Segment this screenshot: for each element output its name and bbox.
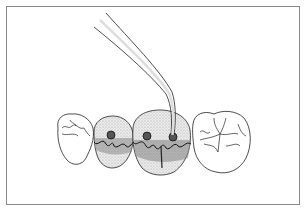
second-tooth <box>94 116 134 168</box>
left-premolar-tooth <box>58 114 94 164</box>
right-molar-tooth <box>193 111 251 172</box>
pit-icon <box>107 131 115 139</box>
third-molar-tooth <box>133 110 191 175</box>
pit-icon <box>143 132 151 140</box>
dental-illustration <box>0 0 305 210</box>
